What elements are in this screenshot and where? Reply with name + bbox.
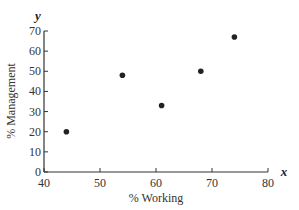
axes xyxy=(44,31,268,172)
y-axis-title: % Management xyxy=(4,63,18,139)
y-tick-label: 20 xyxy=(29,125,41,139)
data-point xyxy=(64,129,70,135)
data-point xyxy=(120,73,126,79)
y-tick-label: 30 xyxy=(29,105,41,119)
y-tick-label: 60 xyxy=(29,44,41,58)
y-tick-label: 10 xyxy=(29,145,41,159)
x-ticks: 4050607080 xyxy=(38,168,274,190)
x-variable-label: x xyxy=(280,164,288,179)
x-tick-label: 60 xyxy=(150,176,162,190)
y-tick-label: 40 xyxy=(29,84,41,98)
data-point xyxy=(159,103,165,109)
data-points xyxy=(64,34,238,134)
x-tick-label: 50 xyxy=(94,176,106,190)
x-axis-title: % Working xyxy=(129,191,183,205)
y-tick-label: 50 xyxy=(29,64,41,78)
y-tick-label: 0 xyxy=(35,165,41,179)
scatter-chart: 4050607080 010203040506070 y x % Working… xyxy=(0,0,299,210)
y-variable-label: y xyxy=(33,8,41,23)
y-ticks: 010203040506070 xyxy=(29,24,48,179)
data-point xyxy=(198,68,204,74)
x-tick-label: 70 xyxy=(206,176,218,190)
x-tick-label: 80 xyxy=(262,176,274,190)
data-point xyxy=(232,34,238,40)
y-tick-label: 70 xyxy=(29,24,41,38)
